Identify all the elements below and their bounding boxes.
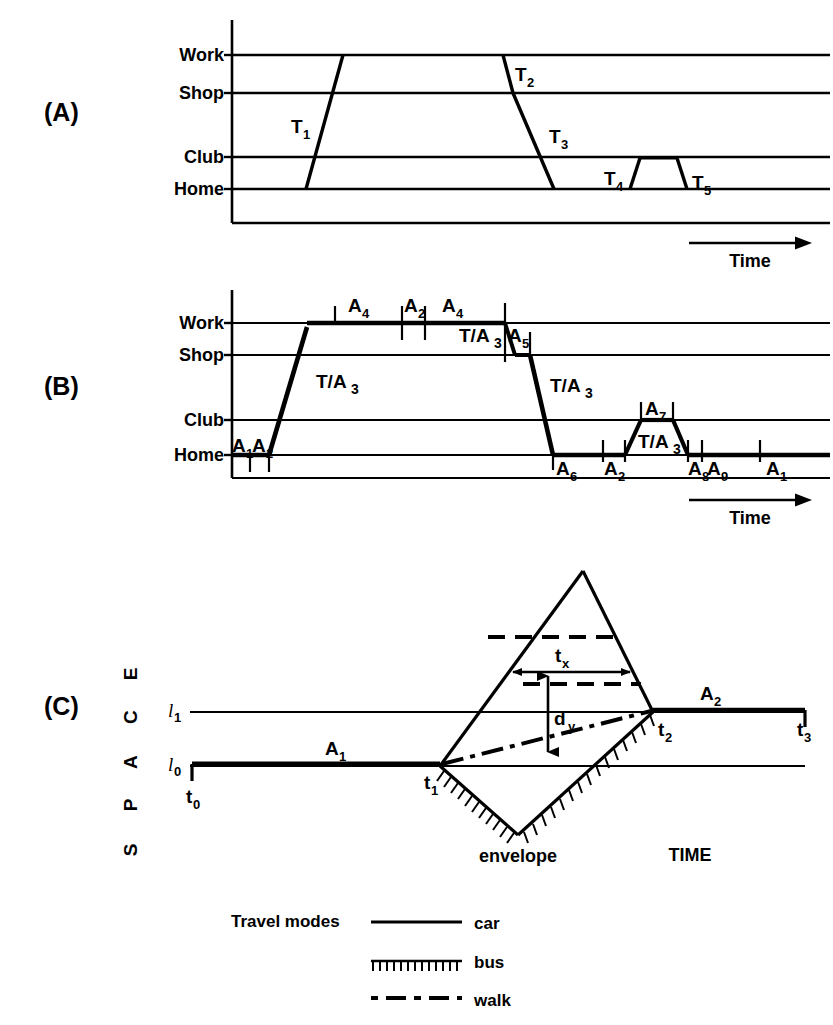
legend-swatch-bus [371,961,462,971]
svg-text:2: 2 [418,306,425,321]
svg-text:3: 3 [804,730,811,745]
panel-a-trip-label-t5: T 5 [692,172,711,198]
panel-c-space-tick-l1: l 1 [168,700,181,725]
svg-text:T/A: T/A [638,431,669,452]
panel-c-time-label-t1: t 1 [424,772,438,798]
svg-text:A: A [348,295,362,316]
panel-a-trip-label-t1: T 1 [291,116,310,142]
panel-b-activity-label-a2-work: A 2 [404,295,425,321]
svg-text:E: E [120,668,141,681]
svg-text:A: A [442,295,456,316]
svg-text:4: 4 [362,306,370,321]
panel-b-travel-label-down: T/A 3 [550,375,593,401]
svg-text:A: A [707,458,721,479]
svg-text:1: 1 [780,469,787,484]
panel-b-travel-label-work-shop: T/A 3 [459,325,502,351]
panel-a-trip-path-t5 [677,158,687,189]
svg-text:7: 7 [659,409,666,424]
svg-text:P: P [120,798,141,811]
panel-c-time-label-t0: t 0 [186,786,200,812]
svg-text:t: t [658,719,665,740]
svg-text:0: 0 [193,797,200,812]
panel-b-activity-label-a1-end: A 1 [766,458,787,484]
svg-text:T: T [604,168,616,189]
panel-a-trip-label-t2: T 2 [515,64,534,90]
panel-c-time-label-t2: t 2 [658,719,672,745]
panel-c-envelope-label: envelope [479,846,557,866]
svg-text:2: 2 [665,730,672,745]
svg-text:4: 4 [456,306,464,321]
panel-c-y-axis-label: E C A P S [120,668,141,857]
panel-a-trip-path-t3 [513,93,554,189]
svg-text:T: T [692,172,704,193]
svg-text:A: A [404,295,418,316]
legend-label-walk: walk [473,991,511,1010]
svg-text:3: 3 [494,335,502,351]
svg-text:1: 1 [431,783,438,798]
figure-canvas: (A) (B) (C) Work Shop Club Home [0,0,833,1025]
svg-text:S: S [120,844,141,857]
panel-c-prism-right-edge [583,571,653,712]
svg-text:1: 1 [339,749,346,764]
panel-b-activity-label-a4-first: A 4 [348,295,370,321]
panel-a-chart: Work Shop Club Home T 1 [0,0,833,270]
panel-b-travel-path-home-work [269,327,307,455]
svg-text:T/A: T/A [459,325,490,346]
panel-b-time-axis-label: Time [729,508,771,528]
panel-b-time-arrow [689,494,812,507]
svg-text:d: d [554,708,566,729]
svg-text:t: t [424,772,431,793]
svg-text:A: A [556,458,570,479]
panel-a-axis-label-work: Work [179,45,225,65]
panel-c-measure-label-tx: t x [555,645,570,671]
panel-b-axis-label-shop: Shop [179,345,224,365]
svg-text:t: t [555,645,562,666]
svg-text:6: 6 [570,469,577,484]
svg-text:T: T [515,64,527,85]
svg-text:2: 2 [618,469,625,484]
panel-c-chart: E C A P S l 1 l 0 [0,550,833,890]
svg-text:t: t [797,719,804,740]
legend-title: Travel modes [231,912,340,931]
svg-text:A: A [688,458,702,479]
panel-b-travel-label-up: T/A 3 [316,371,359,397]
svg-text:A: A [252,435,266,456]
panel-b-chart: Work Shop Club Home [0,270,833,550]
svg-text:x: x [562,656,570,671]
panel-b-axis-label-home: Home [174,445,224,465]
panel-c-space-tick-l0: l 0 [168,754,181,779]
svg-text:1: 1 [174,710,181,725]
svg-text:A: A [766,458,780,479]
panel-a-time-axis-label: Time [729,251,771,270]
svg-text:T/A: T/A [550,375,581,396]
svg-text:A: A [325,738,339,759]
svg-text:A: A [232,435,246,456]
svg-text:A: A [604,458,618,479]
panel-c-activity-label-a1: A 1 [325,738,346,764]
svg-text:3: 3 [351,381,359,397]
svg-text:3: 3 [585,385,593,401]
panel-a-time-arrow [689,237,812,250]
legend-label-bus: bus [474,953,504,972]
svg-text:T: T [549,126,561,147]
panel-b-axis-label-work: Work [179,313,225,333]
svg-text:9: 9 [721,469,728,484]
panel-a-trip-path-t2 [503,55,513,93]
svg-text:A: A [700,683,714,704]
svg-text:T: T [291,116,303,137]
svg-text:A: A [645,398,659,419]
svg-text:T/A: T/A [316,371,347,392]
panel-b-axis-label-club: Club [184,410,224,430]
panel-a-axis-label-club: Club [184,147,224,167]
panel-c-activity-label-a2: A 2 [700,683,721,709]
svg-text:A: A [120,755,141,769]
panel-c-bus-envelope [437,712,654,843]
panel-a-axis-label-home: Home [174,179,224,199]
legend-label-car: car [474,914,500,933]
panel-b-activity-label-a6: A 6 [556,458,577,484]
panel-b-travel-path-shop-home [530,355,553,455]
svg-text:3: 3 [561,137,568,152]
panel-b-activity-label-a4-second: A 4 [442,295,464,321]
svg-text:l: l [168,700,173,721]
legend: Travel modes car bus [0,890,833,1025]
